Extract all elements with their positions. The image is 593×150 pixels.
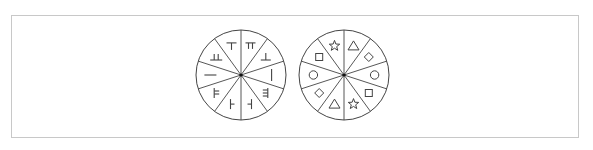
up-tack-icon [261, 53, 271, 60]
square-icon [316, 54, 323, 61]
right-tee-icon [231, 99, 235, 109]
figure-canvas [0, 0, 593, 150]
left-tee-icon [248, 99, 252, 109]
square-icon [365, 90, 372, 97]
pi-icon [246, 43, 256, 49]
triangle-icon [329, 99, 340, 108]
triple-left-icon [263, 88, 268, 98]
circle-strokes [196, 30, 286, 120]
down-tack-icon [227, 43, 237, 50]
circle-icon [309, 71, 317, 79]
diamond-icon [364, 53, 373, 62]
circle-shapes [299, 30, 389, 120]
star-icon [348, 99, 358, 109]
circle-icon [370, 71, 378, 79]
double-right-icon [214, 88, 219, 98]
star-icon [329, 40, 339, 50]
diamond-icon [315, 89, 324, 98]
triangle-icon [348, 41, 359, 50]
double-up-icon [210, 54, 222, 60]
